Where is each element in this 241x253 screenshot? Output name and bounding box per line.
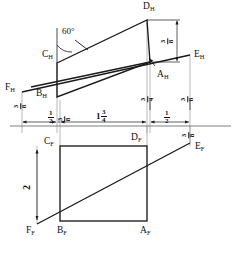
dim-38-fh: 38	[13, 104, 28, 110]
label-f-top: FH	[5, 83, 15, 93]
label-a-front: AF	[140, 226, 151, 236]
label-e-top: EH	[194, 50, 205, 60]
dim-height-2: 2	[21, 185, 32, 190]
label-b-top: BH	[36, 89, 47, 99]
label-d-front: DF	[131, 133, 142, 143]
label-a-top: AH	[157, 70, 169, 80]
label-d-top: DH	[143, 2, 155, 12]
dim-half-left: 12	[48, 110, 54, 125]
engineering-drawing: DH CH EH AH FH BH CF DF EF FF BF AF 60° …	[0, 0, 241, 253]
drawing-canvas	[0, 0, 241, 253]
dim-1-3-4: 134	[96, 109, 107, 124]
dim-38-top-right: 38	[160, 39, 175, 45]
dim-38-left: 38	[57, 117, 72, 123]
angle-label-60: 60°	[62, 26, 75, 36]
plane-abcd-front	[60, 146, 147, 221]
dim-38-eh: 38	[180, 97, 195, 103]
front-view-geometry	[37, 143, 190, 224]
dim-34-ah: 34	[140, 97, 155, 103]
dim-38-ef: 38	[181, 133, 196, 139]
label-e-front: EF	[195, 142, 204, 152]
line-ba-top	[31, 62, 150, 87]
label-f-front: FF	[26, 226, 35, 236]
label-c-front: CF	[44, 137, 54, 147]
label-b-front: BF	[57, 226, 67, 236]
label-c-top: CH	[42, 50, 53, 60]
dim-half-right: 12	[164, 110, 170, 125]
